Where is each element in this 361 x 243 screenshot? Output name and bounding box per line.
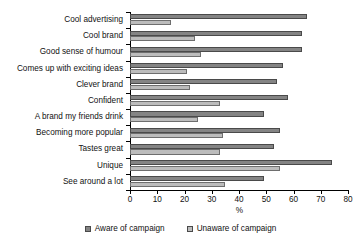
bar-aware — [130, 128, 280, 133]
bar-row — [130, 77, 348, 93]
y-axis-tick-label: Becoming more popular — [36, 125, 123, 141]
x-axis-tick — [157, 190, 158, 194]
bar-unaware — [130, 36, 195, 41]
x-axis-tick-label: 20 — [173, 195, 197, 205]
chart-legend: Aware of campaignUnaware of campaign — [0, 224, 361, 233]
legend-item: Unaware of campaign — [187, 224, 277, 233]
bar-aware — [130, 63, 283, 68]
y-axis-tick — [126, 28, 130, 29]
plot-area — [130, 12, 348, 190]
x-axis-tick-label: 50 — [254, 195, 278, 205]
y-axis-tick — [126, 12, 130, 13]
bar-row — [130, 44, 348, 60]
y-axis-tick — [126, 141, 130, 142]
y-axis-tick-label: Good sense of humour — [40, 44, 123, 60]
bar-unaware — [130, 101, 220, 106]
y-axis-tick-label: Cool brand — [83, 28, 123, 44]
bar-row — [130, 93, 348, 109]
x-axis-tick — [294, 190, 295, 194]
y-axis-tick — [126, 93, 130, 94]
x-axis-tick-label: 30 — [200, 195, 224, 205]
bar-row — [130, 125, 348, 141]
bar-row — [130, 109, 348, 125]
legend-swatch-light-icon — [187, 226, 193, 232]
bar-aware — [130, 144, 274, 149]
bar-aware — [130, 47, 302, 52]
x-axis-tick-label: 10 — [145, 195, 169, 205]
y-axis-tick — [126, 190, 130, 191]
bar-unaware — [130, 85, 190, 90]
y-axis-tick — [126, 109, 130, 110]
bar-unaware — [130, 117, 198, 122]
y-axis-tick-label: See around a lot — [63, 174, 123, 190]
x-axis-tick-label: 80 — [336, 195, 360, 205]
bar-aware — [130, 95, 288, 100]
x-axis-tick — [239, 190, 240, 194]
bar-row — [130, 141, 348, 157]
y-axis-tick — [126, 61, 130, 62]
bar-unaware — [130, 182, 225, 187]
bar-unaware — [130, 133, 223, 138]
x-axis-tick — [212, 190, 213, 194]
legend-item: Aware of campaign — [85, 224, 165, 233]
legend-label: Aware of campaign — [95, 224, 165, 233]
y-axis-tick — [126, 77, 130, 78]
bar-unaware — [130, 20, 171, 25]
bar-chart: Cool advertisingCool brandGood sense of … — [0, 0, 361, 243]
y-axis-tick — [126, 125, 130, 126]
y-axis-tick — [126, 44, 130, 45]
y-axis-tick — [126, 174, 130, 175]
y-axis-tick-label: Clever brand — [76, 77, 123, 93]
bar-row — [130, 28, 348, 44]
x-axis-title: % — [130, 206, 349, 215]
y-axis-tick-label: Tastes great — [78, 141, 123, 157]
bar-unaware — [130, 166, 280, 171]
bar-row — [130, 158, 348, 174]
x-axis-tick — [185, 190, 186, 194]
bar-aware — [130, 31, 302, 36]
x-axis-tick-label: 70 — [309, 195, 333, 205]
bar-unaware — [130, 69, 187, 74]
bar-row — [130, 61, 348, 77]
x-axis-tick-label: 0 — [118, 195, 142, 205]
y-axis-tick-label: Comes up with exciting ideas — [17, 61, 123, 77]
x-axis-tick — [130, 190, 131, 194]
legend-swatch-dark-icon — [85, 226, 91, 232]
legend-label: Unaware of campaign — [197, 224, 277, 233]
x-axis-tick — [321, 190, 322, 194]
x-axis-tick-label: 40 — [227, 195, 251, 205]
bar-row — [130, 174, 348, 190]
bar-aware — [130, 176, 264, 181]
bar-unaware — [130, 149, 220, 154]
bar-aware — [130, 14, 307, 19]
x-axis-tick — [266, 190, 267, 194]
bar-aware — [130, 79, 277, 84]
y-axis-tick — [126, 158, 130, 159]
bar-aware — [130, 111, 264, 116]
y-axis-tick-label: Cool advertising — [64, 12, 123, 28]
x-axis-tick-label: 60 — [282, 195, 306, 205]
y-axis-category-labels: Cool advertisingCool brandGood sense of … — [0, 12, 127, 190]
y-axis-tick-label: A brand my friends drink — [35, 109, 123, 125]
x-axis-tick — [348, 190, 349, 194]
bar-row — [130, 12, 348, 28]
bar-rows — [130, 12, 348, 190]
bar-aware — [130, 160, 332, 165]
y-axis-tick-label: Confident — [88, 93, 123, 109]
bar-unaware — [130, 52, 201, 57]
y-axis-tick-label: Unique — [97, 158, 123, 174]
